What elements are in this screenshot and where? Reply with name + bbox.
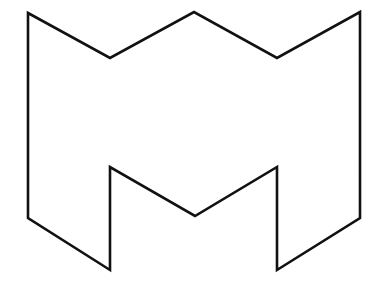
- m-shape-svg: [0, 0, 381, 289]
- canvas-background: [0, 0, 381, 289]
- drawing-canvas: [0, 0, 381, 289]
